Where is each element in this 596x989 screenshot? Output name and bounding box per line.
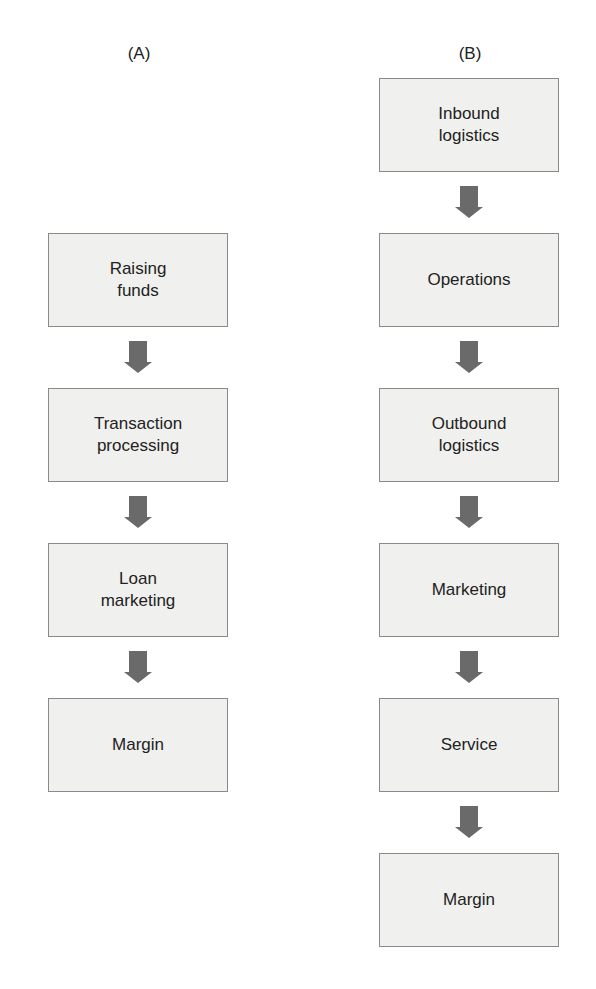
down-arrow-icon	[124, 496, 152, 528]
down-arrow-icon	[455, 651, 483, 683]
step-box-b2: Operations	[379, 233, 559, 327]
down-arrow-icon	[124, 341, 152, 373]
step-box-a2: Transaction processing	[48, 388, 228, 482]
down-arrow-icon	[124, 651, 152, 683]
step-box-b6: Margin	[379, 853, 559, 947]
step-box-a1: Raising funds	[48, 233, 228, 327]
down-arrow-icon	[455, 496, 483, 528]
step-box-b5: Service	[379, 698, 559, 792]
down-arrow-icon	[455, 186, 483, 218]
step-box-b4: Marketing	[379, 543, 559, 637]
step-box-b1: Inbound logistics	[379, 78, 559, 172]
label-b: (B)	[440, 44, 500, 64]
step-box-b3: Outbound logistics	[379, 388, 559, 482]
down-arrow-icon	[455, 806, 483, 838]
step-box-a4: Margin	[48, 698, 228, 792]
down-arrow-icon	[455, 341, 483, 373]
label-a: (A)	[109, 44, 169, 64]
step-box-a3: Loan marketing	[48, 543, 228, 637]
